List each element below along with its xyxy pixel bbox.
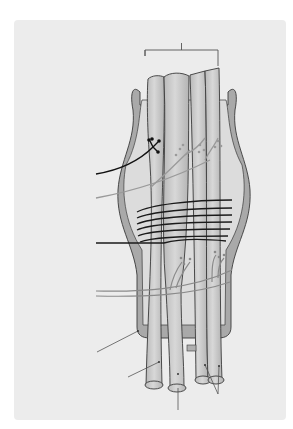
intrafusal-bracket [145, 43, 218, 66]
muscle-spindle-diagram [0, 0, 293, 429]
fibre-gap [187, 345, 196, 351]
nuclear-chain-fibre-2 [205, 68, 222, 380]
